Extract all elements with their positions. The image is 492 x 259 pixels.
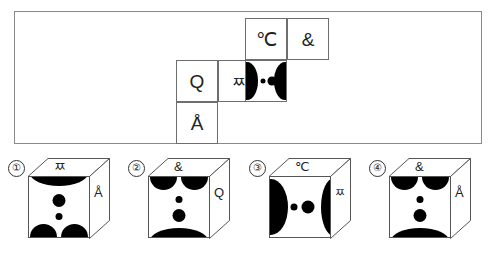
face-blob-right-icon xyxy=(274,62,287,100)
option-1-number: ① xyxy=(8,160,25,177)
option-3[interactable]: ③ ℃ ㅉ xyxy=(245,150,365,259)
option-4-top-label: & xyxy=(415,158,424,175)
face-arc-top-icon xyxy=(30,176,88,186)
face-twin-top-icon xyxy=(150,176,208,190)
face-pattern-arc-top-twin-bottom-icon xyxy=(29,177,89,237)
option-4-cube-front-face xyxy=(389,176,451,238)
option-3-side-label: ㅉ xyxy=(335,188,345,199)
face-dot-small-icon xyxy=(417,196,424,203)
option-3-cube-front-face xyxy=(269,176,331,238)
face-pattern-twin-top-arc-bottom-icon xyxy=(390,177,450,237)
face-arc-bottom-icon xyxy=(391,228,449,238)
face-blob-left-icon xyxy=(245,62,258,100)
face-dot-small-icon xyxy=(56,213,63,220)
face-lobe-top-right-icon xyxy=(422,176,449,190)
face-twin-top-icon xyxy=(391,176,449,190)
option-2-side-label: Q xyxy=(214,186,224,199)
option-3-top-label: ℃ xyxy=(295,158,310,175)
cube-net: ℃ & Q ㅉ Å xyxy=(0,0,492,150)
option-2-number: ② xyxy=(128,160,145,177)
face-pattern-twin-top-arc-bottom-icon xyxy=(149,177,209,237)
net-cell-celsius: ℃ xyxy=(245,18,287,60)
option-4-side-label: Å xyxy=(455,186,464,199)
net-cell-ampersand: & xyxy=(287,18,329,60)
option-1-side-label: Å xyxy=(94,186,103,199)
face-lobe-top-left-icon xyxy=(150,176,177,190)
face-pattern-horizontal-icon xyxy=(270,177,330,237)
option-1-top-label: ㅉ xyxy=(54,158,66,175)
face-blob-left-icon xyxy=(269,179,288,235)
face-arc-right-icon xyxy=(321,178,331,236)
net-cell-q-label: Q xyxy=(190,72,205,91)
option-3-number: ③ xyxy=(249,160,266,177)
option-2-cube: & Q xyxy=(148,158,236,246)
net-cell-ampersand-label: & xyxy=(302,30,315,49)
option-4-cube: & Å xyxy=(389,158,477,246)
option-2[interactable]: ② & Q xyxy=(124,150,244,259)
face-dot-small-icon xyxy=(176,196,183,203)
face-lobe-bottom-left-icon xyxy=(30,224,57,238)
net-cell-q: Q xyxy=(176,60,218,102)
face-arc-bottom-icon xyxy=(150,228,208,238)
option-4-number: ④ xyxy=(369,160,386,177)
face-dot-small-icon xyxy=(260,79,265,84)
option-1[interactable]: ① ㅉ Å xyxy=(4,150,124,259)
answer-options: ① ㅉ Å xyxy=(0,150,492,259)
option-3-cube: ℃ ㅉ xyxy=(269,158,357,246)
face-dot-big-icon xyxy=(53,194,66,207)
option-1-cube-front-face xyxy=(28,176,90,238)
face-dot-big-icon xyxy=(173,209,186,222)
option-2-top-label: & xyxy=(174,158,183,175)
face-dot-big-icon xyxy=(414,209,427,222)
face-lobe-top-left-icon xyxy=(391,176,418,190)
option-1-cube: ㅉ Å xyxy=(28,158,116,246)
net-cell-ssangjieut-label: ㅉ xyxy=(232,74,246,89)
face-dot-big-icon xyxy=(301,201,314,214)
net-cell-angstrom: Å xyxy=(176,102,218,144)
face-lobe-top-right-icon xyxy=(181,176,208,190)
face-lobe-bottom-right-icon xyxy=(61,224,88,238)
option-4[interactable]: ④ & Å xyxy=(365,150,485,259)
face-dot-small-icon xyxy=(291,204,298,211)
face-twin-bottom-icon xyxy=(30,224,88,238)
option-2-cube-front-face xyxy=(148,176,210,238)
net-cell-angstrom-label: Å xyxy=(191,114,204,133)
face-pattern-horizontal-icon xyxy=(246,61,286,101)
net-cell-face-pattern xyxy=(245,60,287,102)
net-cell-celsius-label: ℃ xyxy=(256,30,277,49)
